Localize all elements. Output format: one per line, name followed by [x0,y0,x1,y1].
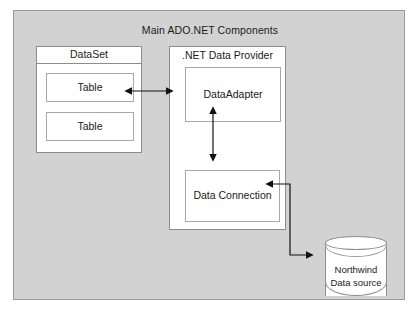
dataset-title: DataSet [70,48,108,61]
net-data-provider-container[interactable]: .NET Data Provider DataAdapter Data Conn… [169,46,286,230]
dataset-header: DataSet [37,47,141,64]
diagram-canvas: Main ADO.NET Components DataSet Table Ta… [0,0,416,314]
data-adapter-label: DataAdapter [204,88,263,101]
data-source-label: Northwind Data source [325,264,387,290]
data-connection-box[interactable]: Data Connection [185,170,280,222]
data-source-cylinder[interactable]: Northwind Data source [325,236,387,303]
net-data-provider-title: .NET Data Provider [170,49,285,61]
dataset-container[interactable]: DataSet Table Table [36,46,142,153]
diagram-outer-frame: Main ADO.NET Components DataSet Table Ta… [13,10,405,300]
data-source-line-1: Northwind [325,264,387,277]
cylinder-top-ellipse [325,236,387,250]
data-adapter-box[interactable]: DataAdapter [185,67,281,122]
data-connection-label: Data Connection [193,189,271,202]
data-source-line-2: Data source [325,277,387,290]
dataset-table-2-label: Table [77,120,102,133]
diagram-title: Main ADO.NET Components [14,24,406,36]
dataset-table-2[interactable]: Table [46,112,134,141]
dataset-table-1-label: Table [77,81,102,94]
dataset-table-1[interactable]: Table [46,73,134,102]
